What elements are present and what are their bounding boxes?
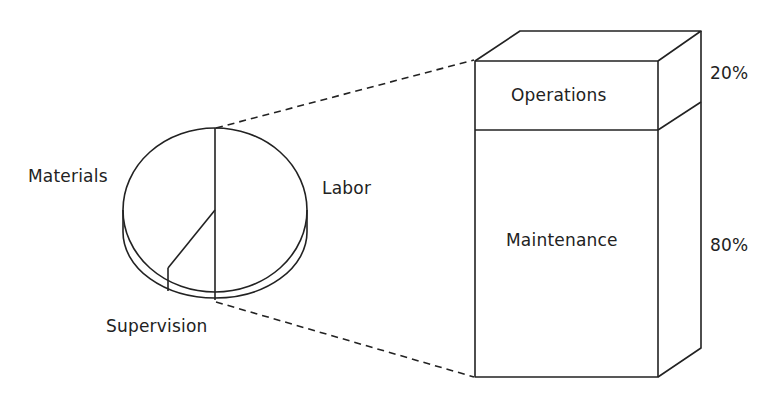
- bar-front-face: [475, 61, 658, 377]
- bar-label-operations: Operations: [511, 85, 606, 105]
- connector-bottom: [216, 302, 474, 377]
- connector-top: [216, 60, 474, 128]
- bar-label-maintenance: Maintenance: [506, 230, 618, 250]
- bar-right-face: [658, 31, 701, 377]
- diagram-canvas: [0, 0, 778, 396]
- bar-top-face: [475, 31, 701, 61]
- label-materials: Materials: [28, 166, 108, 186]
- bar-right-divider: [658, 102, 701, 130]
- percent-operations: 20%: [710, 63, 748, 83]
- pie-divider-supervision: [168, 210, 215, 268]
- percent-maintenance: 80%: [710, 235, 748, 255]
- label-supervision: Supervision: [106, 316, 208, 336]
- label-labor: Labor: [322, 178, 371, 198]
